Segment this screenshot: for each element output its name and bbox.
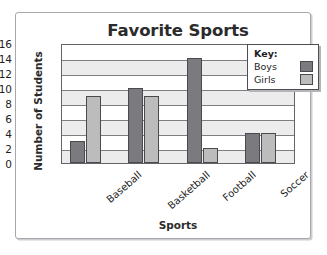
bar — [203, 148, 218, 163]
chart-frame: Favorite Sports Number of Students 02468… — [15, 12, 311, 239]
y-axis-label: Number of Students — [32, 46, 44, 176]
y-tick-label: 16 — [0, 39, 12, 50]
legend-item: Boys — [253, 61, 313, 72]
x-tick-label: Basketball — [165, 169, 211, 211]
bar — [261, 133, 276, 163]
page-title: Favorite Sports — [60, 21, 296, 40]
legend-title: Key: — [253, 48, 313, 59]
bar — [70, 141, 85, 164]
y-tick-label: 10 — [0, 84, 12, 95]
x-tick-label: Baseball — [105, 169, 144, 205]
x-tick-label: Football — [221, 169, 258, 203]
legend-swatch — [300, 61, 313, 72]
x-axis-label: Sports — [61, 219, 295, 231]
legend: Key: BoysGirls — [247, 44, 319, 90]
y-tick-label: 14 — [0, 54, 12, 65]
y-tick-label: 2 — [0, 144, 12, 155]
bar — [245, 133, 260, 163]
legend-swatch — [300, 74, 313, 85]
legend-rows: BoysGirls — [253, 61, 313, 85]
y-tick-label: 8 — [0, 99, 12, 110]
legend-item: Girls — [253, 74, 313, 85]
y-tick-label: 6 — [0, 114, 12, 125]
bar — [128, 88, 143, 163]
x-tick-label: Soccer — [278, 169, 311, 199]
y-tick-label: 4 — [0, 129, 12, 140]
bar — [144, 96, 159, 164]
y-tick-label: 12 — [0, 69, 12, 80]
legend-item-label: Girls — [253, 74, 276, 85]
legend-item-label: Boys — [253, 61, 277, 72]
y-tick-label: 0 — [0, 159, 12, 170]
bar — [86, 96, 101, 164]
bar — [187, 58, 202, 163]
